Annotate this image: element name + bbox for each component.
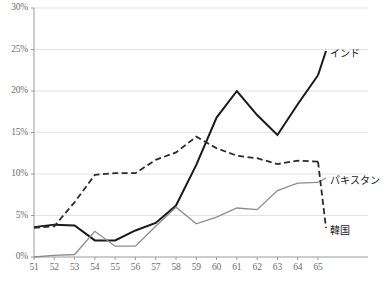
leader-line-india <box>318 51 326 75</box>
x-tick-label: 56 <box>124 262 146 272</box>
x-tick-label: 64 <box>287 262 309 272</box>
x-tick-label: 65 <box>307 262 329 272</box>
y-tick-label: 30% <box>0 2 28 12</box>
y-tick-label: 25% <box>0 44 28 54</box>
leader-line-pakistan <box>318 178 326 182</box>
y-tick-label: 20% <box>0 85 28 95</box>
series-line-korea <box>34 137 318 228</box>
x-tick-label: 61 <box>226 262 248 272</box>
series-label-korea: 韓国 <box>330 222 350 237</box>
x-tick-label: 60 <box>206 262 228 272</box>
x-tick-label: 62 <box>246 262 268 272</box>
line-chart: 0%5%10%15%20%25%30% 51525354555657585960… <box>0 0 386 285</box>
gridlines <box>34 8 368 257</box>
x-tick-label: 57 <box>145 262 167 272</box>
series-label-pakistan: パキスタン <box>330 172 380 187</box>
x-tick-label: 52 <box>43 262 65 272</box>
y-tick-label: 0% <box>0 251 28 261</box>
x-tick-label: 58 <box>165 262 187 272</box>
x-tick-label: 53 <box>64 262 86 272</box>
y-tick-label: 10% <box>0 168 28 178</box>
series-lines <box>34 75 318 257</box>
y-tick-label: 5% <box>0 210 28 220</box>
x-tick-label: 55 <box>104 262 126 272</box>
leader-line-korea <box>318 162 326 228</box>
x-tick-label: 63 <box>266 262 288 272</box>
plot-area <box>0 0 386 285</box>
y-tick-label: 15% <box>0 127 28 137</box>
series-label-india: インド <box>330 45 360 60</box>
leader-lines <box>318 51 326 228</box>
x-tick-label: 51 <box>23 262 45 272</box>
series-line-pakistan <box>34 182 318 257</box>
x-tick-label: 59 <box>185 262 207 272</box>
x-tick-label: 54 <box>84 262 106 272</box>
